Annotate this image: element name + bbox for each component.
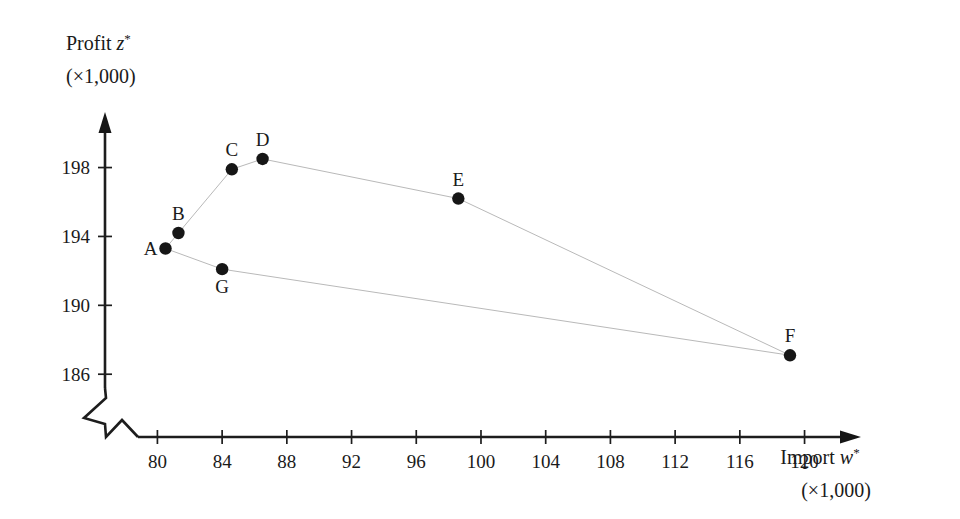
x-tick-label: 88 bbox=[277, 451, 296, 472]
x-axis-title-symbol: w bbox=[840, 446, 854, 468]
frontier-lines bbox=[166, 159, 790, 355]
svg-text:Import w*: Import w* bbox=[780, 445, 859, 469]
x-tick-label: 104 bbox=[531, 451, 560, 472]
x-axis-title: Import w* (×1,000) bbox=[780, 445, 870, 502]
chart-container: 186190194198 808488929610010410811211612… bbox=[0, 0, 960, 519]
x-tick-label: 80 bbox=[148, 451, 167, 472]
data-point-a[interactable] bbox=[159, 242, 171, 254]
data-point-c[interactable] bbox=[226, 163, 238, 175]
x-tick-label: 112 bbox=[661, 451, 689, 472]
data-point-e[interactable] bbox=[452, 192, 464, 204]
y-axis-title-sup: * bbox=[124, 31, 131, 46]
frontier-line-upper-frontier bbox=[166, 159, 790, 355]
y-axis-title-unit: (×1,000) bbox=[66, 65, 136, 88]
data-point-g[interactable] bbox=[216, 263, 228, 275]
svg-text:Profit z*: Profit z* bbox=[66, 31, 131, 54]
x-tick-label: 116 bbox=[726, 451, 754, 472]
y-tick-label: 194 bbox=[62, 226, 91, 247]
data-point-labels: ABCDEFG bbox=[144, 129, 796, 346]
data-point-b[interactable] bbox=[172, 227, 184, 239]
y-axis-title-symbol: z bbox=[116, 32, 125, 54]
x-tick-label: 100 bbox=[467, 451, 496, 472]
scatter-plot: 186190194198 808488929610010410811211612… bbox=[0, 0, 960, 519]
data-point-label-b: B bbox=[172, 203, 185, 224]
y-tick-label: 198 bbox=[62, 157, 91, 178]
y-tick-label: 186 bbox=[62, 364, 91, 385]
y-axis-arrowhead bbox=[99, 112, 112, 133]
x-tick-label: 92 bbox=[342, 451, 361, 472]
frontier-line-lower-frontier bbox=[166, 249, 790, 356]
data-point-f[interactable] bbox=[784, 349, 796, 361]
x-axis-title-main: Import bbox=[780, 446, 835, 469]
data-point-label-d: D bbox=[256, 129, 270, 150]
data-point-label-e: E bbox=[453, 169, 465, 190]
x-axis-arrowhead bbox=[840, 431, 861, 444]
axis-break-zigzag bbox=[84, 388, 138, 437]
x-tick-label: 84 bbox=[213, 451, 233, 472]
y-axis-title: Profit z* (×1,000) bbox=[66, 31, 136, 88]
data-point-label-f: F bbox=[785, 325, 796, 346]
y-axis-title-main: Profit bbox=[66, 32, 112, 54]
data-point-label-a: A bbox=[144, 238, 158, 259]
data-points bbox=[159, 153, 796, 362]
y-tick-label: 190 bbox=[62, 295, 91, 316]
x-axis-title-sup: * bbox=[853, 445, 860, 460]
data-point-d[interactable] bbox=[256, 153, 268, 165]
x-tick-label: 108 bbox=[596, 451, 625, 472]
data-point-label-g: G bbox=[215, 276, 229, 297]
x-tick-label: 96 bbox=[407, 451, 426, 472]
x-axis-title-unit: (×1,000) bbox=[801, 479, 871, 502]
axes bbox=[84, 112, 861, 444]
data-point-label-c: C bbox=[225, 139, 238, 160]
